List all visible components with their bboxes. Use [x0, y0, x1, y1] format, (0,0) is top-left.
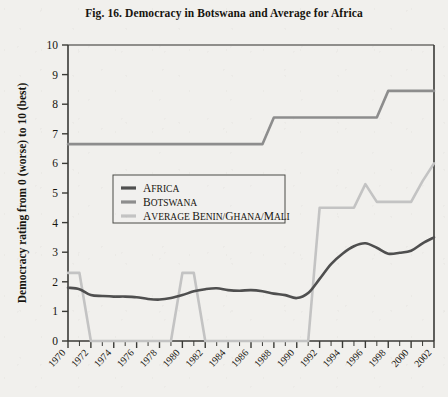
x-tick-label: 2002 — [412, 347, 434, 369]
y-tick-label: 3 — [52, 246, 58, 258]
series-line-africa — [68, 237, 434, 299]
x-tick-label: 1994 — [320, 347, 342, 369]
x-tick-label: 1978 — [137, 347, 159, 369]
x-tick-label: 1980 — [160, 347, 182, 369]
y-tick-label: 7 — [52, 128, 58, 140]
legend-label: AFRICA — [143, 182, 179, 194]
x-tick-label: 1982 — [183, 347, 205, 369]
legend-label: BOTSWANA — [143, 196, 197, 208]
x-tick-label: 1996 — [343, 347, 365, 369]
y-tick-label: 9 — [52, 69, 58, 81]
x-axis-labels: 1970197219741976197819801982198419861988… — [46, 347, 434, 369]
x-tick-label: 1992 — [298, 347, 320, 369]
y-tick-label: 2 — [52, 276, 58, 288]
chart-legend: AFRICABOTSWANAAVERAGE BENIN/GHANA/MALI — [113, 175, 290, 223]
y-tick-label: 8 — [52, 98, 58, 110]
y-tick-label: 6 — [52, 157, 58, 169]
x-tick-label: 1976 — [115, 347, 137, 369]
y-axis: 012345678910 — [47, 39, 69, 347]
x-tick-label: 2000 — [389, 347, 411, 369]
y-tick-label: 10 — [47, 39, 59, 51]
y-axis-title: Democracy rating from 0 (worse) to 10 (b… — [16, 83, 29, 304]
figure-root: Fig. 16. Democracy in Botswana and Avera… — [0, 0, 448, 397]
x-tick-label: 1988 — [252, 347, 274, 369]
x-tick-label: 1974 — [92, 347, 114, 369]
series-line-botswana — [68, 91, 434, 144]
x-tick-label: 1986 — [229, 347, 251, 369]
x-tick-label: 1998 — [366, 347, 388, 369]
y-tick-label: 4 — [52, 217, 58, 229]
x-tick-label: 1990 — [275, 347, 297, 369]
y-tick-label: 0 — [52, 335, 58, 347]
x-tick-label: 1984 — [206, 347, 228, 369]
x-tick-label: 1970 — [46, 347, 68, 369]
y-tick-label: 5 — [52, 187, 58, 199]
y-tick-label: 1 — [52, 305, 58, 317]
x-tick-label: 1972 — [69, 347, 91, 369]
democracy-line-chart: 012345678910 197019721974197619781980198… — [0, 0, 448, 397]
legend-label: AVERAGE BENIN/GHANA/MALI — [143, 210, 290, 222]
